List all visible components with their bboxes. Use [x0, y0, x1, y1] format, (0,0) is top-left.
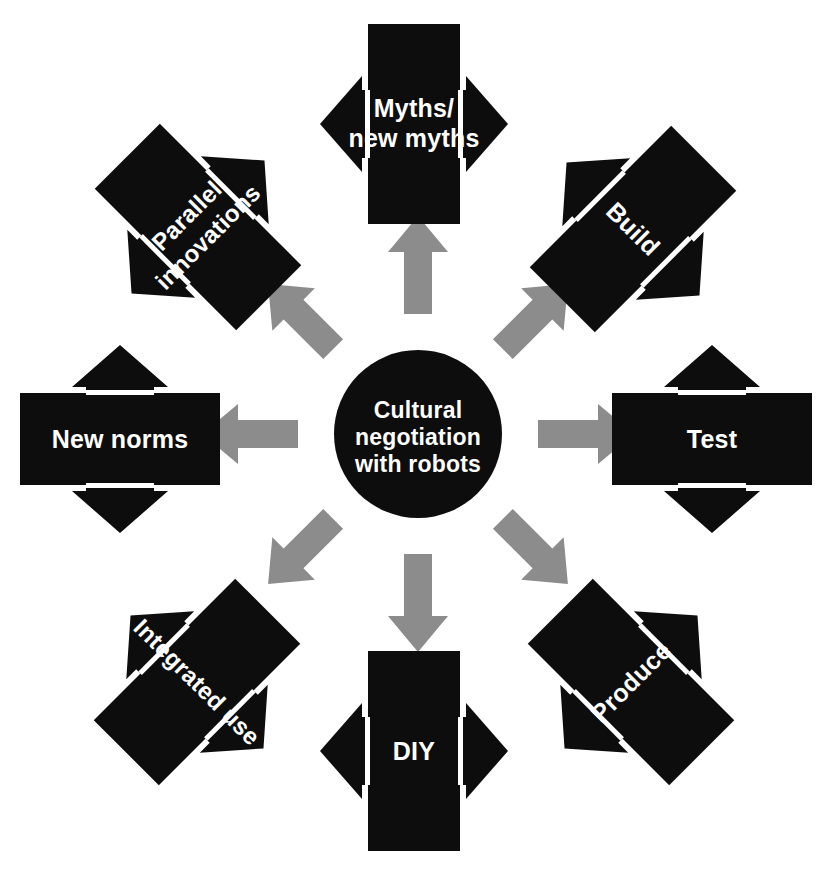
arrow-to-myths-icon [388, 216, 448, 314]
hub-label-line1: Cultural [374, 397, 463, 423]
node-myths-label-line2: new myths [349, 124, 480, 152]
hub-label-line3: with robots [354, 451, 481, 477]
node-test[interactable]: Test [612, 345, 812, 533]
hub[interactable]: Cultural negotiation with robots [334, 350, 502, 518]
node-diy[interactable]: DIY [320, 651, 508, 851]
node-diy-label: DIY [393, 737, 435, 765]
arrow-to-integrated-use-icon [247, 498, 354, 605]
arrow-to-diy-icon [388, 554, 448, 652]
arrow-to-produce-icon [482, 498, 589, 605]
node-new-norms-label: New norms [52, 425, 189, 453]
diagram-canvas: Myths/ new myths Build Test Produce [0, 0, 836, 869]
node-new-norms[interactable]: New norms [20, 345, 220, 533]
node-myths-label-line1: Myths/ [374, 94, 454, 122]
node-produce[interactable]: Produce [494, 545, 768, 819]
node-test-label: Test [687, 425, 738, 453]
hub-label-line2: negotiation [355, 424, 481, 450]
node-myths[interactable]: Myths/ new myths [320, 24, 508, 224]
radial-diagram: Myths/ new myths Build Test Produce [0, 0, 836, 869]
node-integrated-use[interactable]: Integrated use [60, 545, 334, 819]
